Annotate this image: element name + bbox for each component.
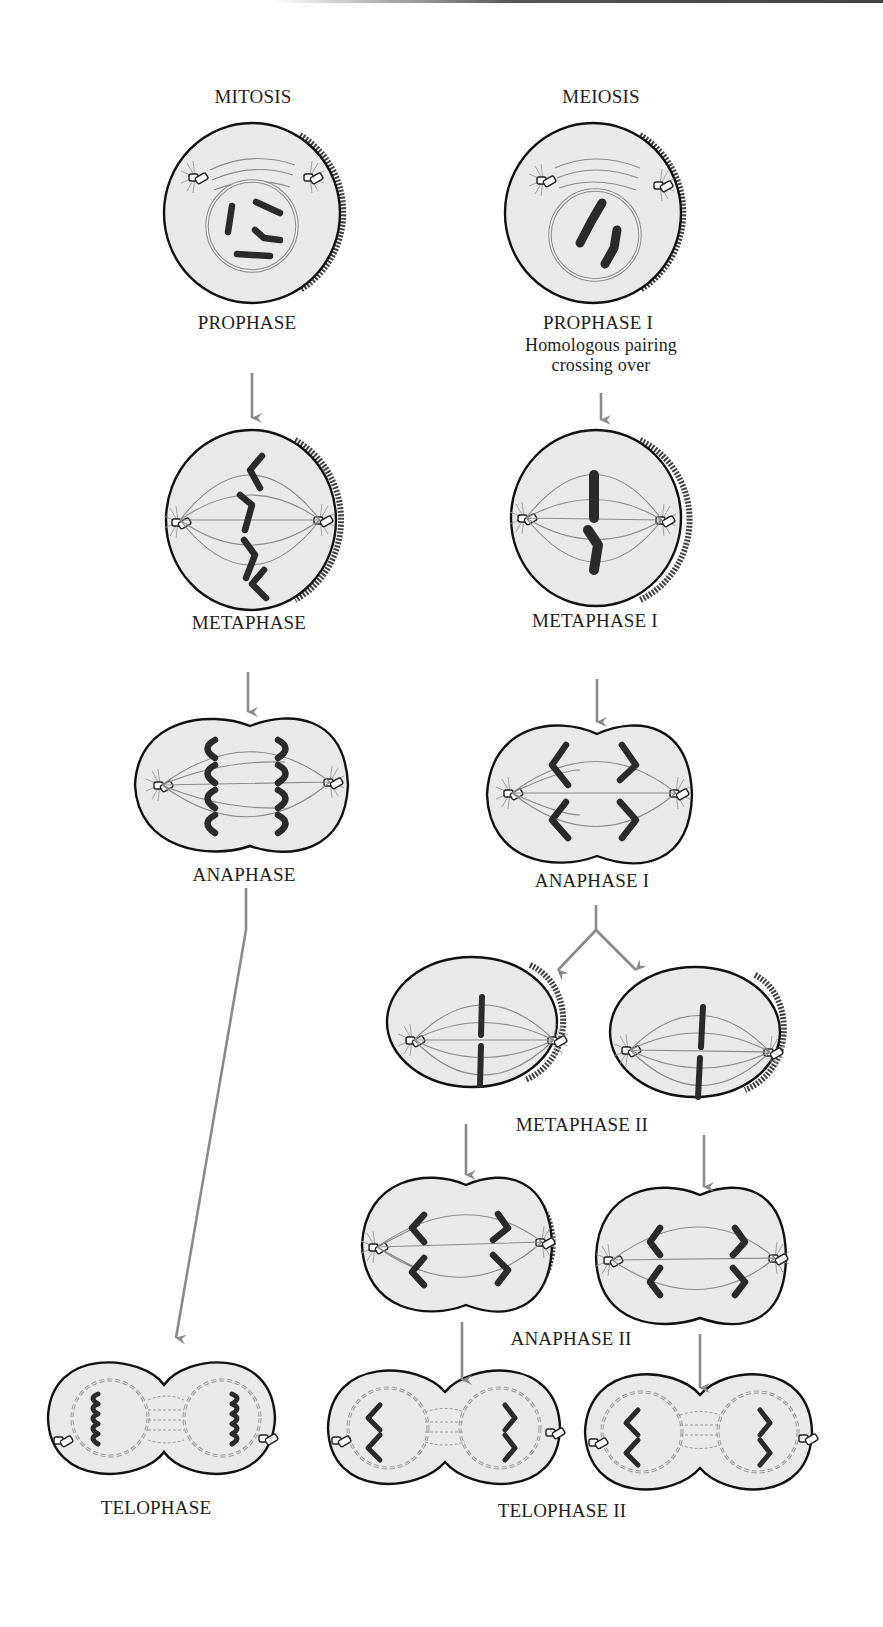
meiosis-anaphase-2-left-cell <box>361 1178 556 1312</box>
arrow-anaphase1-to-metaphase2-left <box>558 930 596 970</box>
mitosis-prophase-cell <box>164 123 343 303</box>
arrow-anaphase-to-telophase <box>176 888 246 1338</box>
label-metaphase: METAPHASE <box>192 612 306 634</box>
meiosis-anaphase-2-right-cell <box>596 1188 789 1324</box>
label-prophase-1: PROPHASE I <box>543 312 653 334</box>
meiosis-telophase-2-left-cell <box>328 1371 566 1484</box>
label-telophase: TELOPHASE <box>101 1497 212 1519</box>
label-anaphase: ANAPHASE <box>193 864 296 886</box>
meiosis-metaphase-2-left-cell <box>387 957 568 1087</box>
label-prophase-1-note-2: crossing over <box>551 355 650 375</box>
mitosis-column-title: MITOSIS <box>214 86 291 108</box>
arrow-anaphase1-to-metaphase2-right <box>596 930 636 970</box>
meiosis-column-title: MEIOSIS <box>562 86 639 108</box>
meiosis-metaphase-2-right-cell <box>610 967 784 1097</box>
label-metaphase-2: METAPHASE II <box>516 1114 648 1136</box>
meiosis-anaphase-1-cell <box>487 726 692 864</box>
mitosis-telophase-cell <box>48 1362 279 1474</box>
mitosis-meiosis-diagram <box>0 0 883 1627</box>
meiosis-prophase-1-cell <box>505 123 683 303</box>
label-telophase-2: TELOPHASE II <box>498 1500 627 1522</box>
meiosis-telophase-2-right-cell <box>585 1374 819 1489</box>
label-prophase: PROPHASE <box>198 312 297 334</box>
label-anaphase-2: ANAPHASE II <box>511 1328 632 1350</box>
label-anaphase-1: ANAPHASE I <box>535 870 649 892</box>
mitosis-metaphase-cell <box>164 430 341 610</box>
label-prophase-1-note-1: Homologous pairing <box>525 335 677 355</box>
mitosis-anaphase-cell <box>135 718 348 851</box>
meiosis-metaphase-1-cell <box>510 430 690 606</box>
label-metaphase-1: METAPHASE I <box>532 610 658 632</box>
